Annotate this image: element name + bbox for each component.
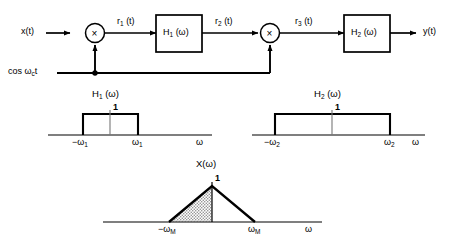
h2-axis-label: ω — [412, 138, 419, 147]
h1-title-base: H — [92, 88, 99, 99]
filter2-subscript: 2 — [358, 31, 362, 38]
filter1-label: H1 (ω) — [163, 28, 189, 37]
h1-right-tick-subscript: 1 — [139, 141, 143, 148]
x-left-tick-label: −ωM — [158, 225, 176, 234]
x-title-arg: (ω) — [202, 158, 216, 169]
signal-r1-subscript: 1 — [120, 20, 124, 27]
x-left-tick-subscript: M — [170, 228, 175, 235]
h1-axis-label: ω — [196, 138, 203, 147]
h1-title-arg: (ω) — [103, 88, 119, 99]
filter1-base: H — [163, 27, 170, 37]
signal-r3-subscript: 3 — [298, 20, 302, 27]
carrier-suffix: t — [35, 66, 38, 76]
x-right-tick-subscript: M — [255, 228, 260, 235]
h2-right-tick-subscript: 2 — [391, 141, 395, 148]
h1-left-tick-subscript: 1 — [84, 141, 88, 148]
signal-r2-label: r2 (t) — [215, 17, 233, 26]
filter2-base: H — [351, 27, 358, 37]
input-signal-label: x(t) — [21, 27, 34, 36]
filter2-label: H2 (ω) — [351, 28, 377, 37]
x-right-tick-label: ωM — [248, 225, 260, 234]
diagram-vector-layer — [0, 0, 451, 246]
carrier-omega: ω — [25, 66, 32, 76]
x-left-tick-base: −ω — [158, 224, 170, 234]
h2-right-tick-base: ω — [384, 137, 391, 147]
carrier-subscript: c — [32, 70, 35, 77]
h1-plot-title: H1 (ω) — [92, 89, 119, 99]
h2-title-arg: (ω) — [325, 88, 341, 99]
mixer1-symbol: × — [92, 29, 98, 39]
h2-title-subscript: 2 — [321, 93, 325, 100]
output-signal-label: y(t) — [423, 27, 436, 36]
h2-plot-title: H2 (ω) — [314, 89, 341, 99]
h1-right-tick-label: ω1 — [132, 138, 143, 147]
mixer2-symbol: × — [267, 29, 273, 39]
x-plot-title: X(ω) — [196, 159, 216, 169]
x-peak-value: 1 — [215, 174, 220, 183]
h1-right-tick-base: ω — [132, 137, 139, 147]
h1-peak-value: 1 — [113, 103, 118, 112]
diagram-canvas: x(t) y(t) cos ωct × × r1 (t) r2 (t) r3 (… — [0, 0, 451, 246]
x-right-tick-base: ω — [248, 224, 255, 234]
filter1-arg: (ω) — [173, 27, 189, 37]
h2-right-tick-label: ω2 — [384, 138, 395, 147]
signal-r3-label: r3 (t) — [295, 17, 313, 26]
filter2-arg: (ω) — [361, 27, 377, 37]
carrier-label: cos ωct — [8, 67, 37, 76]
carrier-prefix: cos — [8, 66, 25, 76]
h2-left-tick-subscript: 2 — [276, 141, 280, 148]
signal-r2-arg: (t) — [222, 16, 233, 26]
filter1-subscript: 1 — [170, 31, 174, 38]
h2-peak-value: 1 — [335, 103, 340, 112]
h1-title-subscript: 1 — [99, 93, 103, 100]
x-axis-label: ω — [305, 225, 312, 234]
signal-r2-subscript: 2 — [218, 20, 222, 27]
carrier-junction-dot — [92, 70, 97, 75]
signal-r3-arg: (t) — [302, 16, 313, 26]
h1-left-tick-base: −ω — [72, 137, 84, 147]
signal-r1-label: r1 (t) — [117, 17, 135, 26]
h1-left-tick-label: −ω1 — [72, 138, 88, 147]
h2-left-tick-label: −ω2 — [264, 138, 280, 147]
h2-left-tick-base: −ω — [264, 137, 276, 147]
h2-title-base: H — [314, 88, 321, 99]
signal-r1-arg: (t) — [124, 16, 135, 26]
